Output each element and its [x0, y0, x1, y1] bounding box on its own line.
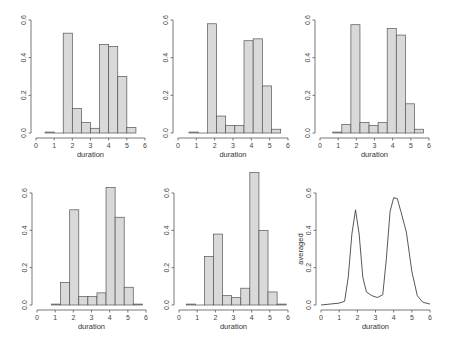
x-axis-label: duration [77, 150, 104, 159]
histogram-bars [186, 172, 286, 305]
histogram-bar [52, 304, 61, 305]
histogram-bar [97, 293, 106, 305]
x-tick-label: 2 [70, 142, 74, 149]
y-axis: 0.00.20.40.6averaged [296, 188, 316, 310]
y-tick-label: 0.0 [162, 128, 169, 138]
y-tick-label: 0.2 [304, 90, 311, 100]
x-tick-label: 4 [391, 142, 395, 149]
x-axis: 0123456duration [177, 310, 290, 331]
histogram-bar [214, 234, 223, 305]
x-tick-label: 1 [53, 314, 57, 321]
x-tick-label: 5 [409, 142, 413, 149]
y-tick-label: 0.2 [305, 263, 312, 273]
x-tick-label: 0 [177, 314, 181, 321]
y-tick-label: 0.4 [162, 53, 169, 63]
x-axis-label: duration [78, 322, 105, 331]
y-tick-label: 0.4 [305, 225, 312, 235]
x-axis-label: duration [220, 322, 247, 331]
x-tick-label: 6 [286, 314, 290, 321]
x-tick-label: 0 [318, 142, 322, 149]
x-tick-label: 6 [428, 314, 432, 321]
y-tick-label: 0.4 [21, 225, 28, 235]
x-tick-label: 4 [108, 314, 112, 321]
panel-3: 0123456duration0.00.20.40.6 [304, 15, 431, 159]
x-tick-label: 2 [71, 314, 75, 321]
y-tick-label: 0.0 [163, 300, 170, 310]
x-tick-label: 0 [34, 142, 38, 149]
histogram-bar [186, 304, 195, 305]
x-axis: 0123456duration [318, 138, 431, 159]
histogram-bar [396, 35, 405, 133]
y-tick-label: 0.6 [305, 188, 312, 198]
x-tick-label: 0 [35, 314, 39, 321]
x-tick-label: 3 [373, 142, 377, 149]
histogram-bar [268, 292, 277, 305]
histogram-bar [106, 187, 115, 305]
histogram-bar [217, 116, 226, 133]
histogram-bar [253, 39, 262, 133]
histogram-bar [235, 125, 244, 133]
histogram-bar [277, 304, 286, 305]
x-axis: 0123456duration [34, 138, 147, 159]
y-tick-label: 0.0 [305, 300, 312, 310]
histogram-bar [133, 304, 142, 305]
y-axis: 0.00.20.40.6 [304, 15, 315, 138]
histogram-bar [333, 132, 342, 133]
x-tick-label: 4 [107, 142, 111, 149]
x-tick-label: 4 [392, 314, 396, 321]
histogram-bar [369, 125, 378, 133]
x-axis-label: duration [362, 322, 389, 331]
x-axis-label: duration [361, 150, 388, 159]
histogram-bar [342, 125, 351, 133]
x-tick-label: 5 [410, 314, 414, 321]
x-tick-label: 0 [319, 314, 323, 321]
y-axis: 0.00.20.40.6 [163, 188, 174, 310]
x-axis: 0123456duration [176, 138, 290, 159]
x-tick-label: 2 [213, 314, 217, 321]
histogram-bar [232, 298, 241, 305]
histogram-bar [100, 44, 109, 133]
y-axis: 0.00.20.40.6 [162, 15, 173, 138]
panel-2: 0123456duration0.00.20.40.6 [162, 15, 290, 159]
x-axis: 0123456duration [319, 310, 432, 331]
histogram-bar [81, 123, 90, 133]
histogram-bar [115, 217, 124, 305]
histogram-bars [333, 25, 424, 133]
x-tick-label: 4 [250, 314, 254, 321]
x-tick-label: 3 [90, 314, 94, 321]
y-tick-label: 0.4 [20, 53, 27, 63]
histogram-bar [405, 104, 414, 133]
histogram-bar [79, 297, 88, 305]
y-tick-label: 0.0 [20, 128, 27, 138]
x-tick-label: 1 [194, 142, 198, 149]
y-axis: 0.00.20.40.6 [20, 15, 31, 138]
x-tick-label: 2 [354, 142, 358, 149]
x-tick-label: 3 [231, 142, 235, 149]
x-tick-label: 1 [52, 142, 56, 149]
histogram-bar [226, 125, 235, 133]
histogram-bar [127, 127, 136, 133]
x-tick-label: 2 [355, 314, 359, 321]
figure-canvas: 0123456duration0.00.20.40.60123456durati… [0, 0, 454, 339]
x-tick-label: 0 [176, 142, 180, 149]
x-tick-label: 6 [427, 142, 431, 149]
histogram-bar [272, 129, 281, 133]
histogram-bar [387, 28, 396, 133]
x-tick-label: 2 [213, 142, 217, 149]
x-tick-label: 4 [249, 142, 253, 149]
histogram-bar [109, 46, 118, 133]
panel-5: 0123456duration0.00.20.40.6 [163, 172, 290, 331]
histogram-bar [45, 132, 54, 133]
histogram-bar [250, 172, 259, 305]
histogram-bar [70, 210, 79, 305]
x-tick-label: 5 [268, 142, 272, 149]
panel-4: 0123456duration0.00.20.40.6 [21, 187, 148, 331]
x-tick-label: 5 [126, 314, 130, 321]
histogram-bar [378, 123, 387, 133]
x-tick-label: 6 [143, 142, 147, 149]
histogram-bars [189, 24, 281, 133]
x-tick-label: 1 [336, 142, 340, 149]
histogram-bar [223, 296, 232, 305]
histogram-bar [244, 41, 253, 133]
averaged-density-curve [321, 198, 430, 305]
